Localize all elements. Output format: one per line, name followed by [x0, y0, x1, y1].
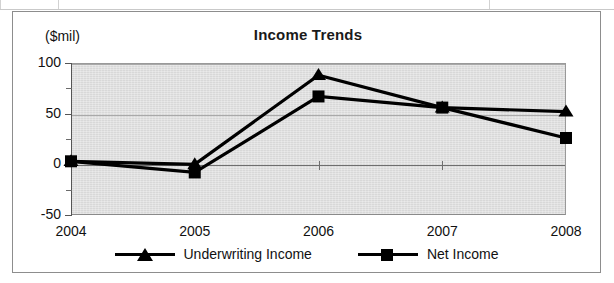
scan-artifact-segment-left — [0, 0, 59, 9]
y-tick-label-100: 100 — [15, 54, 61, 70]
data-point-marker — [560, 132, 572, 144]
square-icon — [381, 249, 393, 261]
series-net-income — [65, 90, 572, 178]
chart-legend: Underwriting IncomeNet Income — [13, 246, 600, 262]
y-axis-unit-label: ($mil) — [45, 28, 80, 44]
legend-item-net-income[interactable]: Net Income — [358, 246, 499, 262]
x-axis-label-2004: 2004 — [36, 223, 106, 239]
x-axis-label-2005: 2005 — [160, 223, 230, 239]
y-tick-label-50: 50 — [15, 105, 61, 121]
legend-item-underwriting-income[interactable]: Underwriting Income — [115, 246, 312, 262]
x-axis-label-2007: 2007 — [407, 223, 477, 239]
legend-label: Underwriting Income — [184, 246, 312, 262]
y-tick-major--50 — [65, 215, 72, 216]
y-tick-label--50: -50 — [15, 206, 61, 222]
series-plot-layer — [71, 63, 566, 215]
chart-frame: Income Trends ($mil) 100500-50 200420052… — [12, 11, 601, 273]
data-point-marker — [313, 90, 325, 102]
series-underwriting-income — [64, 68, 574, 169]
data-point-marker — [311, 68, 326, 80]
chart-title: Income Trends — [163, 26, 453, 43]
data-point-marker — [436, 102, 448, 114]
data-point-marker — [189, 166, 201, 178]
data-point-marker — [65, 155, 77, 167]
scan-artifact-segment-right — [57, 0, 490, 9]
x-axis-label-2008: 2008 — [531, 223, 601, 239]
triangle-icon — [137, 248, 153, 261]
legend-marker-square-icon — [358, 246, 418, 262]
legend-label: Net Income — [427, 246, 499, 262]
scan-artifact-strip — [0, 0, 614, 10]
x-axis-label-2006: 2006 — [284, 223, 354, 239]
y-tick-label-0: 0 — [15, 155, 61, 171]
legend-marker-triangle-icon — [115, 246, 175, 262]
